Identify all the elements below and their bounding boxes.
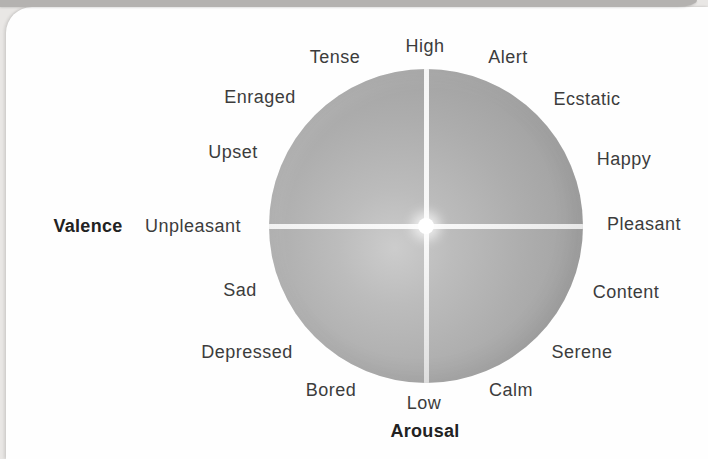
emotion-happy-label: Happy xyxy=(597,149,652,170)
axis-low-label: Low xyxy=(407,393,442,414)
axis-unpleasant-label: Unpleasant xyxy=(145,216,241,237)
axis-pleasant-label: Pleasant xyxy=(607,214,681,235)
axis-valence-label: Valence xyxy=(53,216,122,237)
emotion-depressed-label: Depressed xyxy=(201,342,293,363)
affect-circle xyxy=(269,69,583,383)
circumplex-diagram: HighTenseAlertEnragedEcstaticUpsetHappyV… xyxy=(0,0,708,459)
emotion-enraged-label: Enraged xyxy=(224,87,296,108)
emotion-upset-label: Upset xyxy=(208,142,258,163)
emotion-bored-label: Bored xyxy=(306,380,357,401)
emotion-calm-label: Calm xyxy=(489,380,533,401)
top-page-strip xyxy=(0,0,697,7)
emotion-tense-label: Tense xyxy=(310,47,361,68)
emotion-alert-label: Alert xyxy=(488,47,528,68)
axis-arousal-label: Arousal xyxy=(390,421,459,442)
axis-high-label: High xyxy=(405,36,444,57)
emotion-ecstatic-label: Ecstatic xyxy=(553,89,620,110)
emotion-serene-label: Serene xyxy=(551,342,612,363)
emotion-content-label: Content xyxy=(593,282,660,303)
emotion-sad-label: Sad xyxy=(223,280,257,301)
origin-dot xyxy=(418,218,434,234)
